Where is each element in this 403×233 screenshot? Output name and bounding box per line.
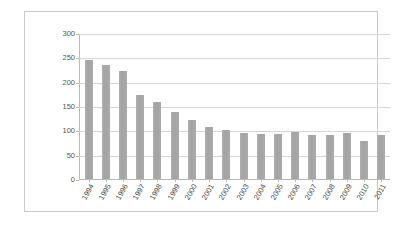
x-axis-tick-label: 2004 (252, 183, 267, 201)
x-axis-tick-mark (330, 179, 331, 182)
bar-group: 2003 (235, 34, 252, 179)
x-axis-tick-mark (106, 179, 107, 182)
bar (222, 130, 230, 179)
chart-frame: 050100150200250300 199419951996199719981… (24, 11, 378, 212)
y-axis-tick-mark (76, 180, 79, 181)
x-axis-tick-mark (347, 179, 348, 182)
x-axis-tick-mark (295, 179, 296, 182)
bar-group: 2010 (356, 34, 373, 179)
x-axis-tick-mark (278, 179, 279, 182)
x-axis-tick-label: 2003 (235, 183, 250, 201)
bar-group: 1996 (114, 34, 131, 179)
x-axis-tick-label: 1998 (149, 183, 164, 201)
bar (102, 65, 110, 179)
bar-group: 1998 (149, 34, 166, 179)
x-axis-tick-label: 1994 (80, 183, 95, 201)
x-axis-tick-mark (381, 179, 382, 182)
bar (326, 135, 334, 179)
bar-group: 2008 (321, 34, 338, 179)
bar-group: 2000 (183, 34, 200, 179)
bar (360, 141, 368, 179)
y-axis-tick-mark (76, 83, 79, 84)
bar (205, 127, 213, 179)
x-axis-tick-label: 1999 (166, 183, 181, 201)
y-axis-tick-label: 250 (62, 55, 75, 63)
x-axis-tick-label: 1997 (132, 183, 147, 201)
bar (274, 134, 282, 179)
bar-group: 2007 (304, 34, 321, 179)
bar (377, 135, 385, 179)
bar (257, 134, 265, 179)
bar-group: 2001 (201, 34, 218, 179)
bar-group: 2006 (287, 34, 304, 179)
y-axis-tick-label: 150 (62, 103, 75, 111)
bar (136, 95, 144, 179)
y-axis-tick-label: 100 (62, 128, 75, 136)
bar-group: 1995 (97, 34, 114, 179)
bar (240, 133, 248, 179)
x-axis-tick-mark (175, 179, 176, 182)
x-axis-tick-mark (261, 179, 262, 182)
x-axis-tick-label: 2000 (184, 183, 199, 201)
y-axis-tick-label: 0 (71, 176, 75, 184)
x-axis-tick-label: 2005 (270, 183, 285, 201)
x-axis-tick-mark (364, 179, 365, 182)
bar (85, 60, 93, 179)
bar (188, 120, 196, 179)
x-axis-tick-label: 2009 (339, 183, 354, 201)
x-axis-tick-label: 2006 (287, 183, 302, 201)
bar-group: 1994 (80, 34, 97, 179)
y-axis-tick-mark (76, 34, 79, 35)
x-axis-tick-mark (123, 179, 124, 182)
y-axis-tick-label: 300 (62, 30, 75, 38)
y-axis-tick-label: 200 (62, 79, 75, 87)
bar (153, 102, 161, 179)
x-axis-tick-label: 2001 (201, 183, 216, 201)
bar (308, 135, 316, 179)
x-axis-tick-label: 2010 (356, 183, 371, 201)
bar (343, 133, 351, 179)
y-axis-tick-label: 50 (67, 152, 75, 160)
y-axis-tick-mark (76, 107, 79, 108)
x-axis-tick-label: 2008 (321, 183, 336, 201)
x-axis-tick-mark (192, 179, 193, 182)
x-axis-tick-mark (140, 179, 141, 182)
bar-group: 2002 (218, 34, 235, 179)
bar (291, 132, 299, 179)
bar-group: 2005 (269, 34, 286, 179)
bar (171, 112, 179, 179)
bar-series: 1994199519961997199819992000200120022003… (80, 34, 390, 179)
plot-area: 050100150200250300 199419951996199719981… (79, 34, 390, 180)
x-axis-tick-label: 2011 (373, 183, 388, 201)
y-axis-tick-mark (76, 156, 79, 157)
bar-group: 1999 (166, 34, 183, 179)
x-axis-tick-mark (226, 179, 227, 182)
bar-group: 2011 (373, 34, 390, 179)
x-axis-tick-mark (244, 179, 245, 182)
x-axis-tick-label: 2002 (218, 183, 233, 201)
x-axis-tick-mark (209, 179, 210, 182)
bar-group: 2004 (252, 34, 269, 179)
bar-group: 2009 (338, 34, 355, 179)
y-axis-tick-mark (76, 58, 79, 59)
bar (119, 71, 127, 179)
x-axis-tick-label: 1996 (115, 183, 130, 201)
bar-group: 1997 (132, 34, 149, 179)
x-axis-tick-label: 1995 (97, 183, 112, 201)
x-axis-tick-label: 2007 (304, 183, 319, 201)
x-axis-tick-mark (157, 179, 158, 182)
x-axis-tick-mark (89, 179, 90, 182)
y-axis-tick-mark (76, 131, 79, 132)
x-axis-tick-mark (312, 179, 313, 182)
x-axis-line (79, 179, 390, 180)
